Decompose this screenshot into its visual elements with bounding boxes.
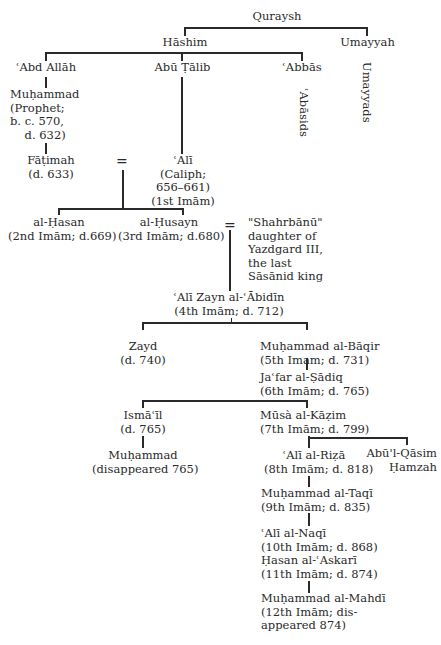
- connector-hasan-husayn: [58, 208, 184, 210]
- node-muhammad-prophet: Muḥammad (Prophet; b. c. 570, d. 632): [10, 88, 100, 142]
- connector-ali-zayn-children: [142, 322, 308, 324]
- connector-to-zayd: [142, 322, 144, 330]
- connector-ismail-muhammad: [142, 436, 144, 448]
- node-hasan: al-Ḥasan (2nd Imām; d.669): [8, 216, 110, 243]
- connector-sadiq-children: [142, 400, 308, 402]
- node-hashim: Hāshim: [150, 36, 220, 50]
- node-muhammad-ismail: Muḥammad (disappeared 765): [92, 449, 194, 476]
- connector-to-baqir: [306, 322, 308, 330]
- connector-hashim-children: [45, 52, 303, 54]
- node-abd-allah: ʿAbd Allāh: [5, 61, 87, 75]
- connector-marriage-children: [122, 170, 124, 208]
- connector-to-riza: [308, 436, 310, 448]
- connector-to-hasan: [58, 208, 60, 215]
- connector-abu-talib-ali: [181, 77, 183, 154]
- node-baqir: Muḥammad al-Bāqir (5th Imam; d. 731): [260, 340, 390, 367]
- node-sadiq: Jaʿfar al-Ṣādiq (6th Imām; d. 765): [260, 371, 390, 398]
- node-fatimah: Fāṭimah (d. 633): [22, 154, 80, 181]
- node-abbasids: ʿAbāsids: [297, 88, 311, 137]
- node-taqi: Muḥammad al-Taqī (9th Imām; d. 835): [261, 487, 391, 514]
- connector-baqir-sadiq: [306, 358, 308, 370]
- node-ali-zayn: ʿAlī Zayn al-ʿĀbidīn (4th Imām; d. 712): [170, 291, 288, 318]
- node-quraysh: Quraysh: [232, 10, 322, 24]
- node-umayyads: Umayyads: [360, 62, 374, 123]
- marriage-fatimah-ali: =: [116, 154, 128, 168]
- node-riza: ʿAlī al-Riẓā (8th Imām; d. 818): [264, 449, 364, 476]
- node-ismail: Ismāʿīl (d. 765): [110, 409, 176, 436]
- node-askari: Ḥasan al-ʿAskarī (11th Imām; d. 874): [261, 554, 391, 581]
- node-naqi: ʿAlī al-Naqī (10th Imām; d. 868): [261, 527, 391, 554]
- node-abul-qasim: Abū'l-Qāsim Ḥamzah: [365, 447, 437, 474]
- node-mahdi: Muḥammad al-Mahdī (12th Imām; dis- appea…: [261, 592, 391, 633]
- node-abbas: ʿAbbās: [277, 61, 327, 75]
- genealogy-tree: Quraysh Hāshim Umayyah Umayyads ʿAbd All…: [0, 0, 441, 645]
- node-kazim: Mūsà al-Kāẓim (7th Imām; d. 799): [260, 409, 390, 436]
- node-umayyah: Umayyah: [335, 36, 400, 50]
- connector-taqi-naqi: [308, 513, 310, 526]
- node-husayn: al-Ḥusayn (3rd Imām; d.680): [118, 216, 220, 243]
- connector-to-husayn: [182, 208, 184, 215]
- node-ali: ʿAlī (Caliph; 656–661) (1st Imām): [148, 154, 218, 208]
- connector-to-kazim: [306, 400, 308, 408]
- connector-kazim-children: [308, 437, 408, 439]
- node-shahrbanu: "Shahrbānū" daughter of Yazdgard III, th…: [248, 216, 343, 284]
- node-abu-talib: Abū Ṭālib: [145, 61, 220, 75]
- connector-to-ismail: [142, 400, 144, 408]
- connector-quraysh-children: [184, 27, 368, 29]
- node-zayd: Zayd (d. 740): [118, 340, 168, 367]
- connector-husayn-ali-zayn: [229, 230, 231, 291]
- connector-to-abul-qasim: [406, 437, 408, 445]
